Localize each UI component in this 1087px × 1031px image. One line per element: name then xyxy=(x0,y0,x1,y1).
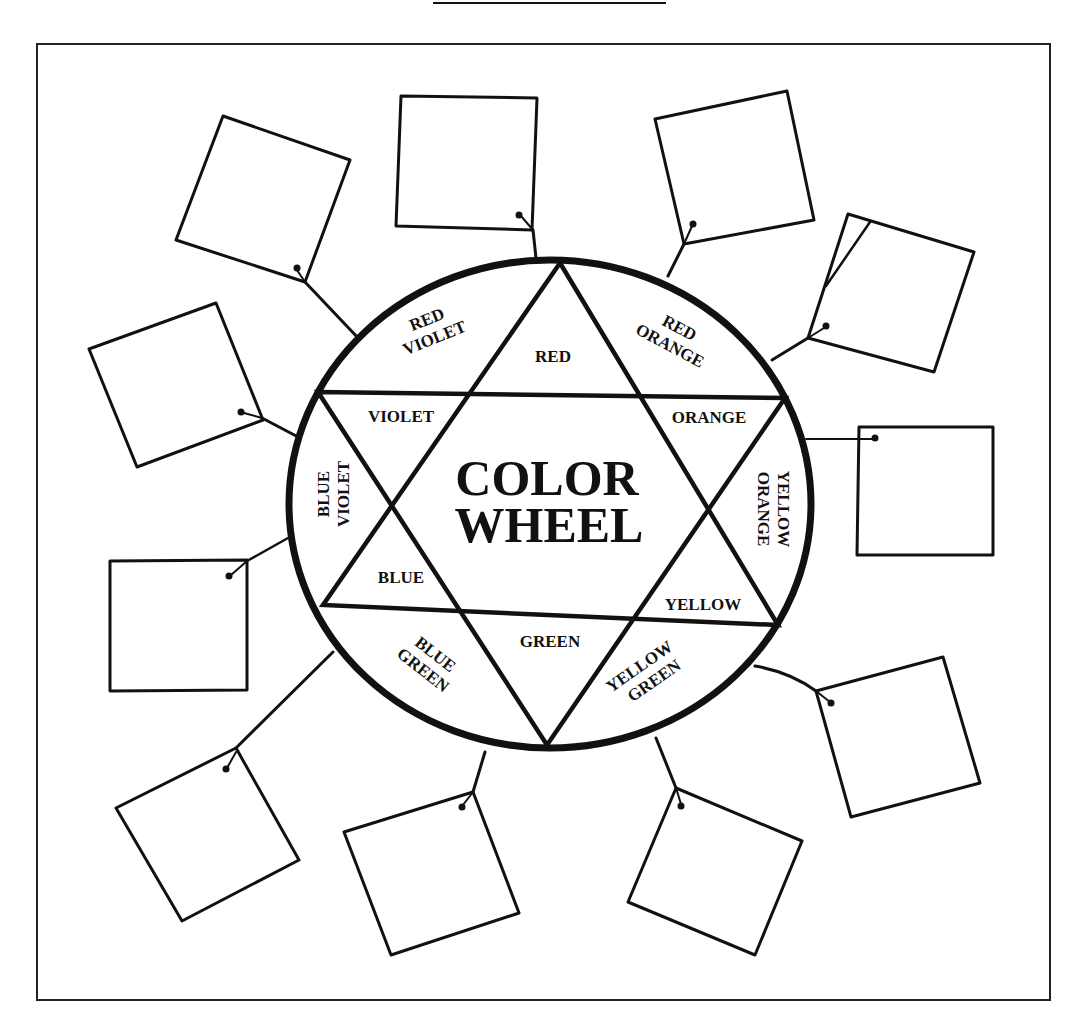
answer-box-orange[interactable] xyxy=(772,214,974,372)
segment-label-yellow-orange: YELLOW ORANGE xyxy=(754,471,793,548)
segment-label-orange: ORANGE xyxy=(672,408,747,427)
svg-text:ORANGE: ORANGE xyxy=(754,472,773,547)
answer-box-yellow-orange[interactable] xyxy=(806,427,993,555)
answer-box-yellow-green[interactable] xyxy=(628,738,802,955)
answer-box-red-orange[interactable] xyxy=(655,91,814,276)
segment-label-green: GREEN xyxy=(520,632,581,651)
answer-box-green[interactable] xyxy=(344,752,519,955)
answer-box-blue-green[interactable] xyxy=(116,652,333,921)
segment-label-yellow: YELLOW xyxy=(665,595,742,614)
answer-box-blue[interactable] xyxy=(110,538,288,691)
wheel-title-line2: WHEEL xyxy=(455,497,644,553)
svg-text:YELLOW: YELLOW xyxy=(774,471,793,548)
answer-box-red[interactable] xyxy=(396,96,537,258)
color-wheel-worksheet: COLOR WHEEL RED ORANGE YELLOW GREEN BLUE… xyxy=(0,0,1087,1031)
segment-label-violet: VIOLET xyxy=(368,407,435,426)
segment-label-blue: BLUE xyxy=(378,568,424,587)
answer-box-violet[interactable] xyxy=(89,303,300,467)
segment-label-red: RED xyxy=(535,347,571,366)
svg-text:VIOLET: VIOLET xyxy=(334,460,353,527)
answer-box-yellow[interactable] xyxy=(755,657,980,817)
svg-text:BLUE: BLUE xyxy=(314,471,333,517)
color-wheel: COLOR WHEEL RED ORANGE YELLOW GREEN BLUE… xyxy=(289,260,811,748)
